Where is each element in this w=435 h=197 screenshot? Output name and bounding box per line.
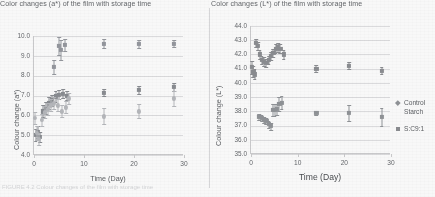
y-axis-tick-label: 9.0 — [10, 53, 30, 59]
legend-spacer — [395, 116, 425, 124]
x-axis-tick-label: 30 — [174, 161, 194, 168]
error-bar-cap — [102, 108, 106, 109]
error-bar-cap — [137, 86, 141, 87]
x-axis-tick-mark — [391, 154, 392, 157]
error-bar-cap — [35, 126, 39, 127]
y-axis-tick-label: 37.0 — [227, 122, 247, 128]
error-bar-cap — [280, 109, 284, 110]
plot-area-l-star: 35.036.037.038.039.040.041.042.043.044.0… — [250, 26, 390, 154]
error-bar-cap — [253, 79, 257, 80]
y-axis-tick-label: 39.0 — [227, 94, 247, 100]
y-axis-tick-label: 43.0 — [227, 37, 247, 43]
error-bar-cap — [315, 115, 319, 116]
marker-diamond-icon — [137, 42, 141, 46]
marker-square-icon — [102, 90, 106, 94]
error-bar-cap — [275, 115, 279, 116]
y-axis-title-l-star: Colour change (L*) — [214, 86, 223, 146]
data-point — [171, 41, 177, 47]
marker-square-icon — [256, 44, 260, 48]
error-bar-cap — [60, 117, 64, 118]
error-bar-cap — [347, 69, 351, 70]
error-bar-cap — [252, 66, 256, 67]
marker-diamond-icon — [347, 111, 351, 115]
data-point — [268, 123, 274, 129]
error-bar-cap — [37, 145, 41, 146]
error-bar-cap — [52, 60, 56, 61]
x-axis-tick-mark — [134, 155, 135, 158]
x-axis-title-l-star: Time (Day) — [250, 172, 390, 182]
data-point — [66, 95, 72, 101]
error-bar-cap — [59, 40, 63, 41]
x-axis-tick-mark — [184, 155, 185, 158]
error-bar-cap — [67, 104, 71, 105]
data-point — [379, 114, 385, 120]
marker-diamond-icon — [314, 111, 318, 115]
legend-item[interactable]: S:C9:1 — [395, 124, 425, 133]
error-bar-cap — [172, 47, 176, 48]
error-bar-cap — [254, 39, 258, 40]
data-point — [101, 113, 107, 119]
data-point — [51, 64, 57, 70]
legend-item[interactable]: Control — [395, 98, 425, 107]
error-bar-cap — [137, 40, 141, 41]
error-bar-cap — [347, 121, 351, 122]
data-point — [346, 110, 352, 116]
y-axis-tick-label: 38.0 — [227, 108, 247, 114]
marker-circle-icon — [102, 114, 106, 118]
marker-diamond-icon — [280, 101, 284, 105]
error-bar-cap — [37, 133, 41, 134]
data-point — [36, 136, 42, 142]
gridline — [251, 26, 390, 27]
error-bar-cap — [274, 53, 278, 54]
gridline — [251, 83, 390, 84]
x-axis-title-a-star: Time (Day) — [33, 174, 183, 183]
error-bar-cap — [57, 37, 61, 38]
error-bar-cap — [269, 130, 273, 131]
chart-legend-l-star: ControlStarchS:C9:1 — [395, 98, 425, 134]
error-bar-cap — [102, 48, 106, 49]
error-bar-cap — [137, 94, 141, 95]
x-axis-tick-mark — [34, 155, 35, 158]
error-bar-cap — [61, 98, 65, 99]
error-bar-cap — [137, 104, 141, 105]
x-axis-tick-label: 10 — [74, 161, 94, 168]
marker-circle-icon — [33, 116, 37, 120]
x-axis-tick-label: 10 — [288, 160, 308, 167]
marker-square-icon — [396, 127, 400, 131]
data-point — [255, 43, 261, 49]
gridline — [251, 140, 390, 141]
error-bar-cap — [65, 91, 69, 92]
data-point — [346, 63, 352, 69]
error-bar-cap — [59, 60, 63, 61]
error-bar-cap — [280, 96, 284, 97]
data-point — [101, 41, 107, 47]
y-axis-tick-label: 41.0 — [227, 65, 247, 71]
data-point — [279, 100, 285, 106]
error-bar-cap — [63, 39, 67, 40]
error-bar-cap — [172, 106, 176, 107]
error-bar-cap — [102, 39, 106, 40]
error-bar-cap — [380, 108, 384, 109]
y-axis-tick-label: 7.0 — [10, 92, 30, 98]
data-point — [62, 42, 68, 48]
error-bar-cap — [40, 126, 44, 127]
error-bar-cap — [258, 50, 262, 51]
marker-circle-icon — [172, 96, 176, 100]
error-bar-cap — [52, 74, 56, 75]
data-point — [136, 108, 142, 114]
gridline — [251, 40, 390, 41]
error-bar-cap — [272, 57, 276, 58]
x-axis-tick-label: 20 — [124, 161, 144, 168]
error-bar-cap — [33, 124, 37, 125]
y-axis-tick-label: 40.0 — [227, 80, 247, 86]
marker-square-icon — [380, 69, 384, 73]
panel-divider — [209, 8, 210, 188]
chart-title-a-star: Color changes (a*) of the film with stor… — [0, 0, 151, 9]
gridline — [251, 69, 390, 70]
data-point — [101, 90, 107, 96]
marker-diamond-icon — [102, 41, 106, 45]
error-bar-cap — [49, 111, 53, 112]
y-axis-title-a-star: Colour change (a*) — [12, 90, 21, 150]
gridline — [34, 56, 183, 57]
legend-item-label: Control — [404, 99, 425, 106]
